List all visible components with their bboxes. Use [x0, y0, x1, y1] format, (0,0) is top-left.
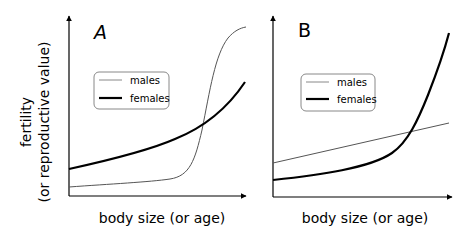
panel-b-legend-females: females	[337, 94, 377, 105]
panel-b-males-curve	[273, 123, 449, 163]
panel-b-legend-males: males	[337, 77, 367, 88]
panel-a-legend: males females	[94, 72, 170, 109]
y-label-line1: fertility	[18, 97, 34, 147]
panel-a: A males females body size (or age)	[69, 16, 246, 226]
panel-b-label: B	[298, 19, 311, 41]
y-label-line2: (or reproductive value)	[36, 41, 52, 202]
panel-a-legend-males: males	[130, 75, 160, 86]
panel-a-legend-females: females	[130, 93, 170, 104]
panel-b-x-label: body size (or age)	[302, 210, 428, 226]
panel-b: B males females body size (or age)	[273, 16, 452, 226]
panel-a-x-label: body size (or age)	[99, 210, 225, 226]
figure: fertility (or reproductive value) A male…	[0, 0, 460, 239]
panel-b-legend: males females	[301, 74, 377, 111]
panel-a-label: A	[92, 21, 107, 43]
y-axis-label: fertility (or reproductive value)	[18, 41, 52, 202]
